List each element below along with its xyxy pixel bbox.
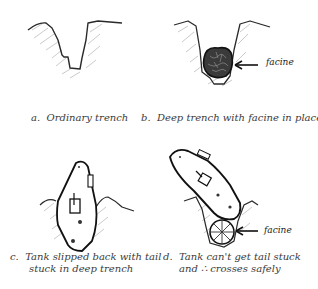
caption-b-prefix: b. [141,112,151,123]
caption-c-line1: Tank slipped back with tail [25,251,161,262]
caption-b-text: Deep trench with facine in place [157,112,318,123]
caption-d-line2: and ∴ crosses safely [163,263,301,275]
facine-bundle [210,220,234,244]
caption-a-prefix: a. [31,112,40,123]
facine-label-d: facine [264,225,292,235]
panel-c: c. Tank slipped back with tail stuck in … [0,145,160,289]
caption-a-text: Ordinary trench [47,112,129,123]
panel-d: facine d. Tank can't get tail stuck and … [158,145,318,289]
tank-crossing-on-facine-drawing [158,145,318,255]
deep-trench-with-facine-drawing [158,0,318,100]
caption-c-prefix: c. [10,251,19,262]
caption-d: d. Tank can't get tail stuck and ∴ cross… [163,251,301,275]
caption-d-prefix: d. [163,251,173,262]
ordinary-trench-drawing [0,0,160,100]
tank-stuck-in-trench-drawing [0,145,160,255]
caption-c-line2: stuck in deep trench [10,263,161,275]
caption-a: a. Ordinary trench [31,112,128,124]
arrow-icon [235,61,258,69]
caption-c: c. Tank slipped back with tail stuck in … [10,251,161,275]
arrow-icon [236,227,258,235]
panel-a: a. Ordinary trench [0,0,160,130]
panel-b: facine b. Deep trench with facine in pla… [158,0,318,130]
facine-bundle [204,48,233,78]
caption-d-line1: Tank can't get tail stuck [179,251,301,262]
tank-shape [170,150,240,220]
tank-shape [57,162,97,251]
caption-b: b. Deep trench with facine in place [141,112,318,124]
facine-label-b: facine [266,57,294,67]
